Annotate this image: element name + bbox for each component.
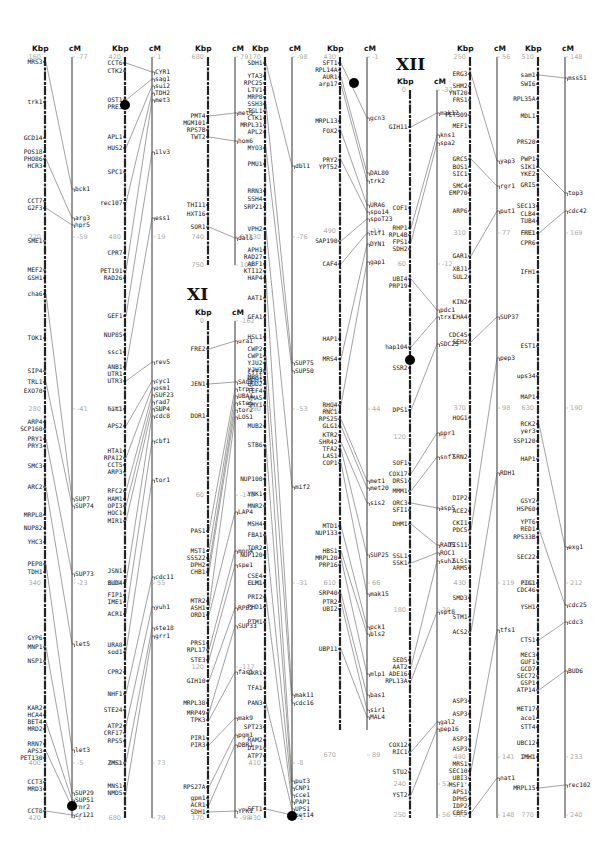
gene-label: CLB4: [521, 210, 536, 217]
genetic-marker-label: yap3: [500, 157, 515, 165]
cm-axis-label: cM: [232, 44, 244, 53]
gene-label: IME1: [108, 598, 123, 605]
cm-tick: 169: [570, 229, 582, 237]
gene-label: NMD5: [108, 789, 123, 796]
gene-label: UBC12: [517, 739, 536, 746]
correspondence-line: [411, 279, 437, 310]
gene-label: ERG3: [453, 70, 468, 77]
gene-label: ARP6: [453, 207, 468, 214]
kbp-tick: 410: [249, 759, 261, 767]
gene-label: POS18: [24, 148, 43, 155]
gene-label: CSE4: [248, 572, 263, 579]
gene-label: SFT1: [323, 59, 338, 66]
gene-label: SMC4: [453, 182, 468, 189]
gene-label: FRE1: [521, 229, 536, 236]
map-panel: KbpcM160220280340400420-77-59-41-23-51MR…: [20, 44, 94, 822]
gene-label: DPH2: [191, 561, 206, 568]
gene-label: RPA12: [104, 454, 123, 461]
gene-label: YNK1: [248, 490, 263, 497]
gene-label: PIR3: [191, 741, 206, 748]
kbp-tick: 610: [324, 579, 336, 587]
gene-label: MDL1: [521, 112, 536, 119]
gene-label: GSH1: [28, 274, 43, 281]
correspondence-line: [46, 382, 72, 506]
correspondence-line: [266, 597, 292, 802]
gene-label: EXO70: [24, 387, 43, 394]
kbp-tick: 180: [394, 606, 406, 614]
kbp-tick: 0: [402, 86, 406, 94]
correspondence-line: [341, 649, 367, 717]
gene-label: YST2: [393, 791, 408, 798]
gene-label: TEF4: [248, 387, 263, 394]
gene-label: DIP2: [453, 494, 468, 501]
gene-label: DRS1: [393, 477, 408, 484]
gene-label: TOK1: [28, 334, 43, 341]
gene-label: VPH2: [248, 225, 263, 232]
correspondence-line: [539, 529, 565, 605]
genetic-marker-label: LAP4: [238, 508, 253, 515]
map-panel: KbpcM6807407507997100PMT4MGM101RPS7BTWT2…: [183, 44, 253, 269]
gene-label: RPL4B: [389, 231, 408, 238]
gene-label: JSN1: [108, 567, 123, 574]
gene-label: SMC3: [28, 462, 43, 469]
gene-label: MNS1: [108, 782, 123, 789]
cm-tick: 89: [372, 751, 380, 759]
genetic-marker-label: SUP7: [75, 495, 90, 502]
genetic-marker-label: pep16: [440, 725, 459, 733]
kbp-tick: 480: [109, 233, 121, 241]
cm-tick: 19: [157, 233, 165, 241]
gene-label: GLG1: [323, 422, 338, 429]
genetic-marker-label: pet14: [295, 811, 314, 819]
gene-label: TGL1: [248, 107, 263, 114]
genetic-marker-label: SUP4: [155, 405, 170, 412]
gene-label: STM1: [453, 613, 468, 620]
gene-label: XBJ1: [453, 265, 468, 272]
kbp-axis-label: Kbp: [32, 44, 49, 53]
genetic-marker-label: bas1: [370, 691, 385, 698]
genetic-marker-label: SUP50: [295, 367, 314, 374]
gene-label: YTA3: [248, 72, 263, 79]
gene-label: APS3: [28, 747, 43, 754]
gene-label: MMM1: [393, 487, 408, 494]
genetic-marker-label: ste18: [155, 624, 174, 631]
gene-label: TOR2: [248, 544, 263, 551]
correspondence-line: [471, 159, 497, 186]
gene-label: SFI1: [393, 506, 408, 513]
gene-label: HUS2: [108, 144, 123, 151]
gene-label: OPI3: [108, 502, 123, 509]
gene-label: SOF1: [393, 459, 408, 466]
cm-tick: 56: [502, 53, 510, 61]
gene-label: SHM2: [453, 82, 468, 89]
gene-label: CAF4: [323, 260, 338, 267]
kbp-tick: 750: [192, 261, 204, 269]
map-panels: KbpcM160220280340400420-77-59-41-23-51MR…: [20, 44, 590, 822]
gene-label: SME1: [28, 237, 43, 244]
gene-label: UBI2: [323, 605, 338, 612]
genetic-marker-label: spa2: [440, 139, 455, 147]
gene-label: MYO3: [248, 144, 263, 151]
genetic-marker-label: cce1: [295, 791, 310, 798]
correspondence-line: [209, 672, 235, 720]
cm-tick: 77: [502, 229, 510, 237]
gene-label: UBI4: [393, 275, 408, 282]
gene-label: MRPL20: [315, 554, 338, 561]
map-panel: KbpcM250310370430490510567798119141148ER…: [445, 44, 519, 819]
genetic-marker-label: met3: [155, 96, 170, 103]
gene-label: ZMS1: [108, 759, 123, 766]
gene-label: hit1: [108, 405, 123, 412]
correspondence-line: [46, 722, 72, 800]
kbp-axis-label: Kbp: [195, 44, 212, 53]
gene-label: SSK1: [393, 559, 408, 566]
genetic-marker-label: cdc25: [568, 601, 587, 608]
genetic-marker-label: yuh1: [155, 603, 170, 611]
genetic-marker-label: DYN1: [370, 240, 385, 247]
gene-label: DPS1: [393, 406, 408, 413]
correspondence-line: [539, 671, 565, 690]
correspondence-line: [411, 433, 437, 474]
correspondence-line: [411, 344, 437, 410]
gene-label: PMU1: [248, 160, 263, 167]
correspondence-line: [341, 262, 367, 405]
gene-label: SED5: [393, 656, 408, 663]
genetic-marker-label: URA6: [370, 201, 385, 208]
cm-tick: -77: [77, 53, 88, 61]
